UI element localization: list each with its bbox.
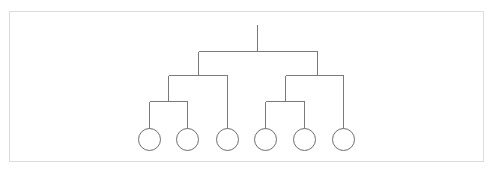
leaf-node-6 <box>333 129 355 151</box>
leaf-node-5 <box>294 129 316 151</box>
leaf-node-4 <box>255 129 277 151</box>
leaf-node-3 <box>217 129 239 151</box>
leaf-node-2 <box>177 129 199 151</box>
leaf-node-1 <box>139 129 161 151</box>
tree-diagram <box>0 0 494 174</box>
